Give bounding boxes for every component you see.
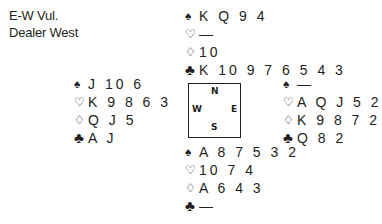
- compass-box: N W E S: [188, 83, 241, 138]
- heart-icon: ♡: [185, 25, 199, 43]
- east-hearts-cards: A Q J 5 2: [297, 93, 382, 111]
- east-spades-row: ♠ —: [283, 75, 382, 93]
- diamond-icon: ♢: [185, 179, 199, 197]
- vulnerability-label: E-W Vul.: [9, 7, 78, 24]
- dealer-label: Dealer West: [9, 24, 78, 41]
- compass-east: E: [231, 104, 237, 114]
- heart-icon: ♡: [74, 93, 88, 111]
- heart-icon: ♡: [185, 161, 199, 179]
- west-spades-cards: J 10 6: [88, 75, 144, 93]
- east-hand: ♠ — ♡ A Q J 5 2 ♢ K 9 8 7 2 ♣ Q 8 2: [283, 75, 382, 147]
- diamond-icon: ♢: [74, 111, 88, 129]
- east-hearts-row: ♡ A Q J 5 2: [283, 93, 382, 111]
- north-diamonds-row: ♢ 10: [185, 43, 346, 61]
- club-icon: ♣: [74, 129, 88, 147]
- south-spades-row: ♠ A 8 7 5 3 2: [185, 143, 299, 161]
- west-diamonds-row: ♢ Q J 5: [74, 111, 171, 129]
- north-hearts-cards: —: [199, 25, 216, 43]
- west-hand: ♠ J 10 6 ♡ K 9 8 6 3 ♢ Q J 5 ♣ A J: [74, 75, 171, 147]
- heart-icon: ♡: [283, 93, 297, 111]
- south-hearts-row: ♡ 10 7 4: [185, 161, 299, 179]
- spade-icon: ♠: [74, 75, 88, 93]
- south-hearts-cards: 10 7 4: [199, 161, 256, 179]
- spade-icon: ♠: [185, 143, 199, 161]
- south-spades-cards: A 8 7 5 3 2: [199, 143, 299, 161]
- south-diamonds-cards: A 6 4 3: [199, 179, 264, 197]
- club-icon: ♣: [185, 61, 199, 79]
- west-hearts-cards: K 9 8 6 3: [88, 93, 171, 111]
- east-spades-cards: —: [297, 75, 314, 93]
- north-diamonds-cards: 10: [199, 43, 221, 61]
- west-spades-row: ♠ J 10 6: [74, 75, 171, 93]
- east-diamonds-row: ♢ K 9 8 7 2: [283, 111, 382, 129]
- diamond-icon: ♢: [283, 111, 297, 129]
- south-clubs-row: ♣ —: [185, 197, 299, 215]
- west-hearts-row: ♡ K 9 8 6 3: [74, 93, 171, 111]
- east-diamonds-cards: K 9 8 7 2: [297, 111, 380, 129]
- south-clubs-cards: —: [199, 197, 216, 215]
- compass-south: S: [211, 122, 217, 132]
- west-clubs-row: ♣ A J: [74, 129, 171, 147]
- spade-icon: ♠: [185, 7, 199, 25]
- compass-north: N: [211, 86, 219, 96]
- club-icon: ♣: [185, 197, 199, 215]
- diamond-icon: ♢: [185, 43, 199, 61]
- north-spades-row: ♠ K Q 9 4: [185, 7, 346, 25]
- west-diamonds-cards: Q J 5: [88, 111, 136, 129]
- compass-west: W: [192, 104, 202, 114]
- south-diamonds-row: ♢ A 6 4 3: [185, 179, 299, 197]
- west-clubs-cards: A J: [88, 129, 116, 147]
- deal-info: E-W Vul. Dealer West: [9, 7, 78, 41]
- spade-icon: ♠: [283, 75, 297, 93]
- north-hearts-row: ♡ —: [185, 25, 346, 43]
- north-hand: ♠ K Q 9 4 ♡ — ♢ 10 ♣ K 10 9 7 6 5 4 3: [185, 7, 346, 79]
- east-clubs-cards: Q 8 2: [297, 129, 346, 147]
- south-hand: ♠ A 8 7 5 3 2 ♡ 10 7 4 ♢ A 6 4 3 ♣ —: [185, 143, 299, 215]
- north-spades-cards: K Q 9 4: [199, 7, 267, 25]
